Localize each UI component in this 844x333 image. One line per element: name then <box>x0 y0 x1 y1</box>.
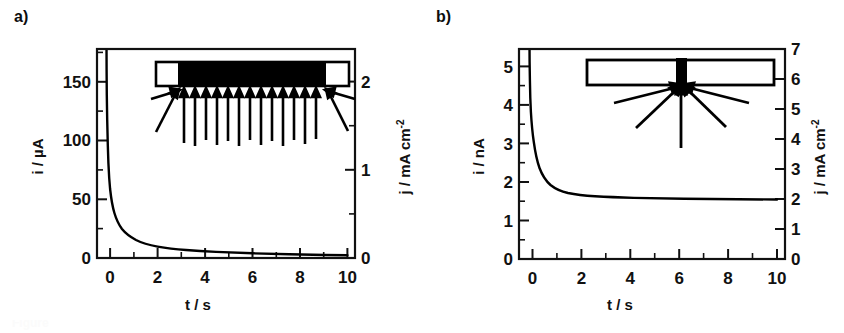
panel-a-plot-area: 0 50 100 150 0 1 2 0 2 4 6 8 10 <box>0 0 422 333</box>
panel-b-y2tick-5: 5 <box>791 100 800 119</box>
panel-a-y2tick-1: 1 <box>361 161 370 180</box>
panel-b-inset-microelectrode-radial-diffusion <box>587 58 774 148</box>
panel-a-ytick-50: 50 <box>72 190 91 209</box>
panel-a-ytick-150: 150 <box>63 73 91 92</box>
panel-b-y2tick-2: 2 <box>791 190 800 209</box>
panel-a-right-ticks <box>345 82 355 258</box>
panel-b-xtick-8: 8 <box>723 269 732 288</box>
panel-a-ytick-0: 0 <box>82 249 91 268</box>
panel-b: b) i / nA t / s j / mA cm-2 <box>422 0 844 333</box>
panel-a-xtick-10: 10 <box>338 268 357 287</box>
panel-b-ytick-5: 5 <box>504 58 513 77</box>
panel-a-ytick-100: 100 <box>63 131 91 150</box>
panel-a-inset-macroelectrode-planar-diffusion <box>151 62 355 146</box>
panel-b-xtick-6: 6 <box>674 269 683 288</box>
panel-a-xtick-8: 8 <box>295 268 304 287</box>
panel-b-y2tick-1: 1 <box>791 220 800 239</box>
panel-a-xtick-0: 0 <box>105 268 114 287</box>
caption-fragment: Figure <box>12 320 49 330</box>
panel-b-plot-area: 0 1 2 3 4 5 0 1 2 3 4 5 6 7 0 2 4 6 8 10 <box>422 0 844 333</box>
panel-b-y2tick-6: 6 <box>791 70 800 89</box>
panel-b-xtick-4: 4 <box>626 269 636 288</box>
panel-b-xtick-2: 2 <box>577 269 586 288</box>
panel-b-y2tick-7: 7 <box>791 40 800 59</box>
panel-a: a) i / µA t / s j / mA cm-2 <box>0 0 422 333</box>
caption-strip: Figure <box>0 320 844 333</box>
panel-b-ytick-3: 3 <box>504 135 513 154</box>
panel-b-y2tick-0: 0 <box>791 250 800 269</box>
panel-b-y2tick-4: 4 <box>791 130 801 149</box>
panel-a-y2tick-2: 2 <box>361 73 370 92</box>
panel-b-y2tick-3: 3 <box>791 160 800 179</box>
panel-a-xtick-2: 2 <box>153 268 162 287</box>
panel-b-xtick-10: 10 <box>768 269 787 288</box>
panel-a-xtick-4: 4 <box>200 268 210 287</box>
panel-b-ytick-4: 4 <box>504 96 514 115</box>
panel-b-ytick-0: 0 <box>504 250 513 269</box>
panel-b-ytick-2: 2 <box>504 173 513 192</box>
panel-b-right-ticks <box>775 49 785 259</box>
panel-a-y2tick-0: 0 <box>361 249 370 268</box>
panel-b-ytick-1: 1 <box>504 212 513 231</box>
figure-chronoamperometry-comparison: a) i / µA t / s j / mA cm-2 <box>0 0 844 333</box>
panel-a-xtick-6: 6 <box>248 268 257 287</box>
panel-b-xtick-0: 0 <box>528 269 537 288</box>
